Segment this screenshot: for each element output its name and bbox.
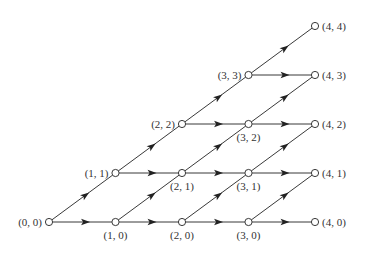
edge-2-2-to-3-3 <box>185 77 246 122</box>
node-label: (4, 4) <box>322 20 346 33</box>
arrowhead-icon <box>280 45 289 53</box>
arrowhead-icon <box>280 143 289 151</box>
node-label: (2, 2) <box>151 118 175 131</box>
node-3-2 <box>245 120 252 127</box>
node-1-0 <box>112 218 119 225</box>
edge-3-0-to-4-1 <box>251 175 312 220</box>
edge-1-1-to-2-2 <box>118 126 179 171</box>
edge-3-2-to-4-3 <box>251 77 312 122</box>
arrowhead-icon <box>213 143 222 151</box>
node-2-1 <box>178 169 185 176</box>
edge-3-3-to-4-4 <box>251 28 312 73</box>
edge-3-1-to-4-2 <box>251 126 312 171</box>
node-0-0 <box>45 218 52 225</box>
node-3-0 <box>245 218 252 225</box>
node-2-0 <box>178 218 185 225</box>
node-4-2 <box>311 120 318 127</box>
node-label: (4, 2) <box>322 118 346 131</box>
node-3-3 <box>245 71 252 78</box>
node-label: (4, 1) <box>322 167 346 180</box>
node-3-1 <box>245 169 252 176</box>
arrowhead-icon <box>80 192 89 200</box>
arrowhead-icon <box>280 94 289 102</box>
arrowhead-icon <box>280 192 289 200</box>
node-label: (3, 2) <box>237 131 261 144</box>
node-label: (3, 3) <box>218 69 242 82</box>
node-4-1 <box>311 169 318 176</box>
node-label: (2, 0) <box>170 229 194 242</box>
edge-0-0-to-1-1 <box>52 175 113 220</box>
node-label: (4, 0) <box>322 216 346 229</box>
arrowhead-icon <box>147 143 156 151</box>
lattice-diagram: (0, 0)(1, 0)(2, 0)(3, 0)(4, 0)(1, 1)(2, … <box>0 0 368 256</box>
lattice-svg: (0, 0)(1, 0)(2, 0)(3, 0)(4, 0)(1, 1)(2, … <box>0 0 368 256</box>
node-label: (1, 0) <box>104 229 128 242</box>
node-1-1 <box>112 169 119 176</box>
node-label: (4, 3) <box>322 69 346 82</box>
arrowhead-icon <box>213 192 222 200</box>
arrowhead-icon <box>147 192 156 200</box>
node-2-2 <box>178 120 185 127</box>
node-label: (1, 1) <box>85 167 109 180</box>
node-4-3 <box>311 71 318 78</box>
node-4-4 <box>311 22 318 29</box>
node-4-0 <box>311 218 318 225</box>
arrowhead-icon <box>213 94 222 102</box>
node-label: (3, 1) <box>237 180 261 193</box>
node-label: (2, 1) <box>170 180 194 193</box>
node-label: (3, 0) <box>237 229 261 242</box>
node-label: (0, 0) <box>18 216 42 229</box>
